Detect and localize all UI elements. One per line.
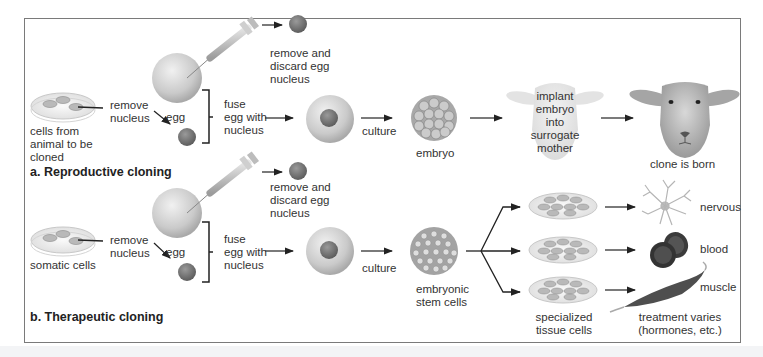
- discard-egg-nucleus-label-a: remove and discard egg nucleus: [270, 47, 331, 86]
- panel-a-title: a. Reproductive cloning: [30, 165, 172, 179]
- petri-dish-icon: [31, 227, 95, 256]
- panel-a-graphics: [31, 15, 741, 160]
- tissue-label-blood: blood: [700, 243, 728, 256]
- remove-nucleus-label-a: remove nucleus: [110, 99, 150, 125]
- embryo-label: embryo: [416, 147, 454, 160]
- remove-nucleus-label-b: remove nucleus: [110, 234, 150, 260]
- fuse-label-b: fuse egg with nucleus: [224, 233, 267, 272]
- donor-nucleus-icon: [178, 128, 196, 146]
- discarded-nucleus-icon: [289, 162, 307, 180]
- culture-label-a: culture: [362, 125, 397, 138]
- tissue-label-nervous: nervous: [700, 201, 741, 214]
- muscle-cell-icon: [610, 262, 706, 312]
- egg-label-b: egg: [166, 246, 185, 259]
- clone-sheep-icon: [628, 82, 741, 158]
- discard-egg-nucleus-label-b: remove and discard egg nucleus: [270, 181, 331, 220]
- stem-cells-icon: [410, 227, 458, 275]
- fuse-label-a: fuse egg with nucleus: [224, 98, 267, 137]
- blood-cells-icon: [650, 229, 692, 268]
- neuron-icon: [642, 180, 691, 225]
- specialized-tissue-label: specialized tissue cells: [527, 311, 601, 337]
- source-cells-label-b: somatic cells: [30, 259, 96, 272]
- culture-label-b: culture: [362, 262, 397, 275]
- donor-nucleus-icon: [178, 263, 196, 281]
- clone-born-label: clone is born: [650, 158, 715, 171]
- embryo-icon: [411, 95, 457, 141]
- syringe-icon: [187, 151, 259, 213]
- implant-label: implant embryo into surrogate mother: [528, 90, 582, 155]
- egg-label-a: egg: [166, 111, 185, 124]
- discarded-nucleus-icon: [289, 15, 307, 33]
- stem-cells-label: embryonic stem cells: [416, 283, 469, 309]
- treatment-label: treatment varies (hormones, etc.): [634, 311, 726, 337]
- tissue-label-muscle: muscle: [700, 281, 736, 294]
- egg-icon: [152, 188, 202, 238]
- egg-icon: [152, 53, 202, 103]
- panel-b-title: b. Therapeutic cloning: [30, 310, 163, 324]
- syringe-icon: [187, 16, 259, 78]
- source-cells-label-a: cells from animal to be cloned: [30, 125, 93, 164]
- specialized-dish-icons: [529, 193, 597, 303]
